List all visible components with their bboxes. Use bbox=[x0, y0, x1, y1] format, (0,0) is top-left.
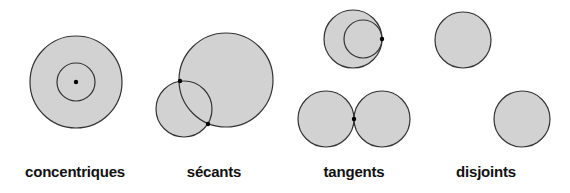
point-marker bbox=[352, 117, 356, 121]
label-disjoint: disjoints bbox=[456, 163, 516, 180]
disjoint-group bbox=[435, 12, 550, 147]
label-tangent: tangents bbox=[324, 163, 385, 180]
point-marker bbox=[206, 122, 210, 126]
tangent-group bbox=[298, 10, 410, 147]
point-marker bbox=[74, 80, 78, 84]
secant-group bbox=[156, 33, 273, 137]
point-marker bbox=[178, 79, 182, 83]
label-secant: sécants bbox=[187, 163, 241, 180]
label-concentric: concentriques bbox=[25, 163, 125, 180]
point-marker bbox=[380, 37, 384, 41]
concentric-group bbox=[30, 36, 122, 128]
